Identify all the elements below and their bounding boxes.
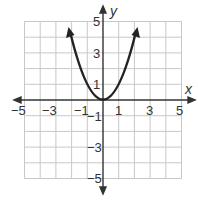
x-axis-label: x	[184, 81, 193, 97]
y-tick-label: 3	[93, 46, 100, 61]
x-tick-label: 1	[115, 103, 122, 118]
y-tick-label: 5	[93, 14, 100, 29]
x-tick-label: −3	[42, 103, 57, 118]
x-tick-label: 3	[146, 103, 153, 118]
x-tick-label: 5	[176, 103, 183, 118]
curve-right-arrow-icon	[132, 27, 141, 38]
y-tick-label: 1	[93, 77, 100, 92]
curve-left-arrow-icon	[66, 27, 75, 38]
x-tick-label: −5	[11, 103, 26, 118]
y-tick-label: −5	[87, 171, 102, 186]
y-axis-label: y	[109, 3, 118, 19]
y-tick-label: −3	[87, 140, 102, 155]
y-tick-label: −1	[87, 109, 102, 124]
coordinate-plane: x y −5 −3 −1 1 3 5 5 3 1 −1 −3 −5	[0, 0, 198, 201]
